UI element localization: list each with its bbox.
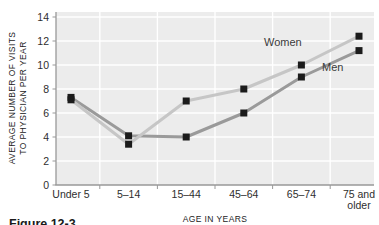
x-tick-label: 5–14 xyxy=(117,188,141,200)
y-tick-label: 0 xyxy=(43,179,49,191)
x-tick-label: 45–64 xyxy=(229,188,258,200)
men-series-label: Men xyxy=(322,61,343,73)
marker-women xyxy=(183,98,190,105)
y-axis-title-line2: TO PHYSICIAN PER YEAR xyxy=(18,41,28,154)
y-tick-label: 2 xyxy=(43,155,49,167)
marker-men xyxy=(356,47,363,54)
y-tick-label: 10 xyxy=(37,59,49,71)
y-tick-label: 8 xyxy=(43,83,49,95)
y-tick-label: 4 xyxy=(43,131,49,143)
marker-men xyxy=(298,74,305,81)
marker-men xyxy=(240,110,247,117)
marker-men xyxy=(125,132,132,139)
line-chart: 02468101214 Under 55–1415–4445–6465–7475… xyxy=(0,0,379,225)
y-tick-label: 14 xyxy=(37,11,49,23)
x-tick-label: Under 5 xyxy=(52,188,90,200)
y-axis-title: AVERAGE NUMBER OF VISITS TO PHYSICIAN PE… xyxy=(7,32,28,165)
women-series-label: Women xyxy=(264,36,302,48)
marker-women xyxy=(240,86,247,93)
marker-women xyxy=(356,33,363,40)
marker-women xyxy=(125,141,132,148)
chart-figure: 02468101214 Under 55–1415–4445–6465–7475… xyxy=(0,0,379,225)
x-tick-label: 65–74 xyxy=(287,188,316,200)
y-tick-label: 6 xyxy=(43,107,49,119)
x-axis-title: AGE IN YEARS xyxy=(183,214,248,224)
x-axis-tick-labels: Under 55–1415–4445–6465–7475 andolder xyxy=(52,188,375,211)
marker-men xyxy=(183,134,190,141)
y-axis-title-line1: AVERAGE NUMBER OF VISITS xyxy=(7,32,17,165)
figure-caption: Figure 12-3 xyxy=(9,217,76,225)
y-tick-label: 12 xyxy=(37,35,49,47)
x-tick-label: 15–44 xyxy=(172,188,201,200)
y-axis-tick-labels: 02468101214 xyxy=(37,11,49,191)
x-tick-label: older xyxy=(347,199,371,211)
marker-men xyxy=(68,94,75,101)
marker-women xyxy=(298,62,305,69)
